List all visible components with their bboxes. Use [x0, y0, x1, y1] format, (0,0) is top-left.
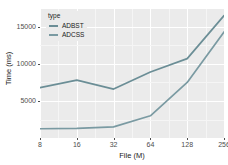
- legend-key-icon: [48, 30, 59, 39]
- y-tick-mark: [38, 27, 40, 28]
- x-tick-mark: [114, 138, 115, 140]
- legend-entries: ADBSTADCSS: [48, 21, 84, 39]
- legend-key-icon: [48, 21, 59, 30]
- x-tick-mark: [40, 138, 41, 140]
- x-axis-title: File (M): [40, 151, 224, 160]
- x-tick-label: 32: [110, 141, 118, 149]
- legend-item: ADCSS: [48, 30, 84, 39]
- x-tick-label: 256: [218, 141, 228, 149]
- gridline-x-major: [224, 9, 225, 138]
- legend: type ADBSTADCSS: [46, 11, 87, 41]
- y-tick-mark: [38, 64, 40, 65]
- y-axis-title: Time (ms): [4, 39, 13, 99]
- legend-title: type: [48, 12, 84, 20]
- legend-item: ADBST: [48, 21, 84, 30]
- y-tick-mark: [38, 101, 40, 102]
- x-tick-label: 8: [38, 141, 42, 149]
- x-tick-label: 64: [146, 141, 154, 149]
- x-tick-label: 128: [181, 141, 193, 149]
- legend-item-label: ADBST: [62, 21, 84, 30]
- x-tick-mark: [77, 138, 78, 140]
- x-tick-label: 16: [73, 141, 81, 149]
- x-tick-mark: [150, 138, 151, 140]
- chart-figure: Time (ms) File (M) type ADBSTADCSS 50001…: [0, 0, 228, 165]
- y-tick-label: 15000: [0, 23, 36, 31]
- y-tick-label: 5000: [0, 97, 36, 105]
- legend-item-label: ADCSS: [62, 30, 84, 39]
- x-tick-mark: [224, 138, 225, 140]
- y-tick-label: 10000: [0, 60, 36, 68]
- x-tick-mark: [187, 138, 188, 140]
